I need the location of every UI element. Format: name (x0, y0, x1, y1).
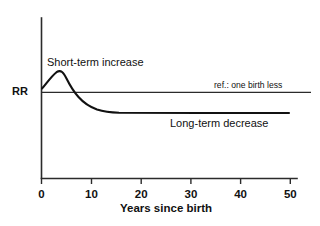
x-tick-label-10: 10 (85, 189, 98, 201)
x-tick-label-0: 0 (38, 189, 44, 201)
chart-plot-area (0, 0, 320, 226)
x-axis-title: Years since birth (120, 203, 212, 215)
annotation-long-term-decrease: Long-term decrease (170, 118, 268, 129)
x-tick-label-40: 40 (234, 189, 247, 201)
x-tick-label-20: 20 (135, 189, 148, 201)
x-axis-ticks (42, 179, 291, 185)
x-tick-label-50: 50 (284, 189, 297, 201)
annotation-reference-note: ref.: one birth less (214, 81, 282, 90)
y-axis-label: RR (12, 86, 28, 97)
chart-figure: RR 0 10 20 30 40 50 Years since birth Sh… (0, 0, 320, 226)
annotation-short-term-increase: Short-term increase (47, 57, 144, 68)
x-tick-label-30: 30 (184, 189, 197, 201)
